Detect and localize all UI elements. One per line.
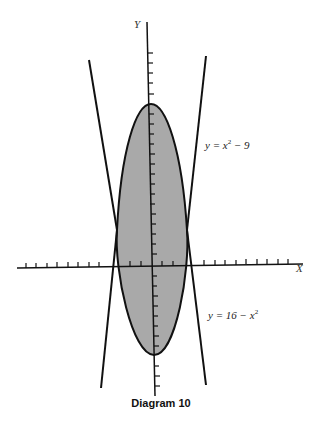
eq-lower-prefix: y = 16 − x — [208, 309, 255, 321]
eq-lower-exponent: 2 — [255, 308, 259, 316]
eq-upper-prefix: y = x — [205, 139, 228, 151]
curve-outer-left-bottom — [101, 230, 117, 388]
diagram-10: Y X y = x2 − 9 y = 16 − x2 Diagram 10 — [0, 0, 322, 425]
diagram-canvas — [0, 0, 322, 425]
x-axis-label: X — [296, 262, 303, 274]
equation-label-upper: y = x2 − 9 — [205, 138, 250, 151]
y-axis-label: Y — [134, 18, 140, 30]
diagram-caption: Diagram 10 — [0, 397, 322, 409]
curve-outer-left-top — [89, 60, 117, 230]
curve-outer-right-bottom — [187, 230, 206, 385]
eq-upper-suffix: − 9 — [231, 139, 249, 151]
curve-outer-right-top — [187, 56, 206, 230]
equation-label-lower: y = 16 − x2 — [208, 308, 258, 321]
